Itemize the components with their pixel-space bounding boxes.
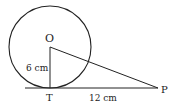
tangent-diagram: O T P 6 cm 12 cm	[0, 0, 173, 110]
label-P: P	[161, 84, 168, 95]
segment-OP	[50, 47, 158, 88]
label-O: O	[45, 32, 54, 45]
label-TP-length: 12 cm	[89, 93, 117, 103]
label-OT-length: 6 cm	[26, 63, 49, 73]
label-T: T	[46, 92, 53, 103]
